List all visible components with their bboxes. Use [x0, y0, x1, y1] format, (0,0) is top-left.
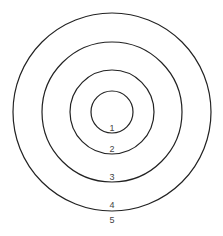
ring-label-2: 2 [109, 144, 114, 154]
ring-2 [70, 70, 154, 154]
ring-label-1: 1 [109, 123, 114, 133]
ring-label-4: 4 [109, 200, 114, 210]
ring-label-3: 3 [109, 172, 114, 182]
ring-3 [42, 42, 182, 182]
outer-label-5: 5 [109, 215, 114, 225]
concentric-circles-diagram: 1 2 3 4 5 [0, 0, 223, 236]
